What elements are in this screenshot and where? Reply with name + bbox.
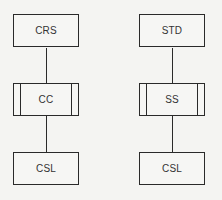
node-label: CC [39, 94, 54, 105]
node-csl-right: CSL [139, 152, 205, 185]
subprocess-bar-left [146, 84, 147, 115]
node-cc: CC [13, 83, 79, 116]
connector-cc-csl [46, 116, 47, 152]
connector-ss-csl [172, 116, 173, 152]
node-crs: CRS [13, 14, 79, 47]
node-ss: SS [139, 83, 205, 116]
subprocess-bar-right [71, 84, 72, 115]
node-label: CRS [35, 25, 57, 36]
node-label: SS [165, 94, 179, 105]
node-label: STD [162, 25, 183, 36]
connector-crs-cc [46, 48, 47, 83]
node-std: STD [139, 14, 205, 47]
node-label: CSL [162, 163, 182, 174]
node-csl-left: CSL [13, 152, 79, 185]
node-label: CSL [36, 163, 56, 174]
subprocess-bar-left [20, 84, 21, 115]
connector-std-ss [172, 48, 173, 83]
subprocess-bar-right [197, 84, 198, 115]
